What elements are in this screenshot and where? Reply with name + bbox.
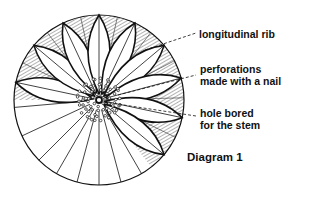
stem-hole-icon (96, 97, 102, 103)
perforation (90, 118, 93, 121)
perforation (105, 85, 108, 88)
perforation (101, 94, 104, 97)
perforation (115, 98, 118, 101)
label-longitudinal-rib: longitudinal rib (199, 28, 275, 40)
diagram-title: Diagram 1 (187, 151, 243, 163)
perforation (92, 78, 95, 81)
perforation (92, 96, 95, 99)
perforation (94, 119, 97, 122)
perforation (106, 92, 109, 95)
perforation (112, 105, 115, 108)
perforation (105, 107, 108, 110)
perforation (108, 97, 111, 100)
perforation (96, 115, 99, 118)
perforation (97, 105, 100, 108)
perforation (91, 90, 94, 93)
label-line: longitudinal rib (199, 28, 275, 40)
perforation (93, 102, 96, 105)
perforation (78, 90, 81, 93)
perforation (87, 110, 90, 113)
perforation (98, 83, 101, 86)
perforation (113, 111, 116, 114)
perforation (99, 77, 102, 80)
radial-line (39, 107, 92, 160)
perforation (103, 89, 106, 92)
perforation (85, 83, 88, 86)
perforation (78, 104, 81, 107)
perforation (115, 109, 118, 112)
perforation (113, 92, 116, 95)
perforation (118, 97, 121, 100)
perforation (97, 109, 100, 112)
perforation (95, 93, 98, 96)
perforation (102, 108, 105, 111)
perforation (109, 88, 112, 91)
perforation (90, 105, 93, 108)
label-line: made with a nail (200, 75, 281, 87)
perforation (82, 104, 85, 107)
label-line: hole bored (200, 107, 260, 119)
perforation (99, 119, 102, 122)
perforation (107, 79, 110, 82)
label-perforations: perforations made with a nail (200, 63, 281, 87)
radial-line (22, 104, 90, 136)
perforation (111, 108, 114, 111)
perforation (107, 116, 110, 119)
label-stem-hole: hole bored for the stem (200, 107, 260, 131)
perforation (108, 112, 111, 115)
perforation (87, 100, 90, 103)
perforation (104, 98, 107, 101)
perforation (78, 100, 81, 103)
perforation (99, 89, 102, 92)
perforation (85, 108, 88, 111)
perforation (104, 114, 107, 117)
perforation (114, 86, 117, 89)
label-line: for the stem (200, 119, 260, 131)
perforation (87, 98, 90, 101)
perforation (90, 85, 93, 88)
perforation (116, 87, 119, 90)
perforation (83, 91, 86, 94)
perforation (76, 96, 79, 99)
perforation (88, 116, 91, 119)
perforation (80, 112, 83, 115)
perforation (82, 99, 85, 102)
perforation (91, 108, 94, 111)
label-line: perforations (200, 63, 281, 75)
